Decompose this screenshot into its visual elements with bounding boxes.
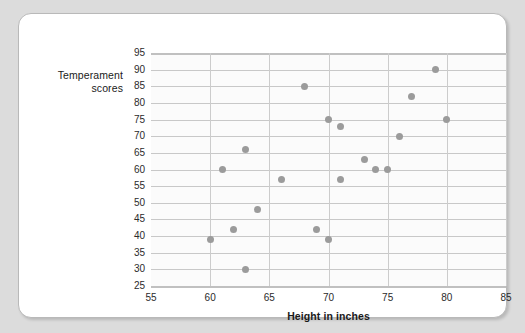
scatter-point (396, 133, 403, 140)
scatter-point (325, 236, 332, 243)
scatter-point (219, 166, 226, 173)
x-axis-tick-label: 70 (314, 293, 344, 303)
y-axis-tick-label: 60 (119, 165, 145, 175)
y-axis-tick-label: 50 (119, 198, 145, 208)
x-axis-tick-label: 60 (195, 293, 225, 303)
y-axis-tick-label: 45 (119, 214, 145, 224)
gridline-horizontal (151, 286, 506, 288)
scatter-point (325, 116, 332, 123)
scatter-point (408, 93, 415, 100)
plot-area (151, 53, 506, 286)
scatter-point (432, 66, 439, 73)
scatter-point (230, 226, 237, 233)
scatter-point (301, 83, 308, 90)
y-axis-title: Temperament scores (37, 69, 123, 95)
x-axis-tick-label: 55 (136, 293, 166, 303)
gridline-vertical (329, 53, 330, 286)
y-axis-tick-label: 75 (119, 115, 145, 125)
gridline-vertical (269, 53, 270, 286)
x-axis-tick-label: 85 (491, 293, 521, 303)
scatter-point (443, 116, 450, 123)
x-axis-tick-label: 80 (432, 293, 462, 303)
figure-root: Temperament scores Height in inches 2530… (0, 0, 525, 333)
scatter-point (254, 206, 261, 213)
scatter-point (242, 266, 249, 273)
gridline-vertical (506, 53, 507, 286)
y-axis-tick-label: 35 (119, 248, 145, 258)
scatter-point (313, 226, 320, 233)
gridline-vertical (210, 53, 211, 286)
y-axis-tick-label: 90 (119, 65, 145, 75)
x-axis-title: Height in inches (151, 310, 506, 322)
x-axis-tick-label: 65 (254, 293, 284, 303)
scatter-point (337, 176, 344, 183)
scatter-point (361, 156, 368, 163)
y-axis-tick-label: 85 (119, 81, 145, 91)
y-axis-tick-label: 70 (119, 131, 145, 141)
gridline-vertical (447, 53, 448, 286)
y-axis-tick-label: 25 (119, 281, 145, 291)
chart-card: Temperament scores Height in inches 2530… (18, 13, 507, 318)
scatter-point (384, 166, 391, 173)
y-axis-title-line-2: scores (37, 82, 123, 95)
y-axis-tick-label: 30 (119, 264, 145, 274)
y-axis-tick-label: 65 (119, 148, 145, 158)
x-axis-tick-label: 75 (373, 293, 403, 303)
y-axis-tick-label: 55 (119, 181, 145, 191)
y-axis-tick-label: 95 (119, 48, 145, 58)
y-axis-tick-label: 80 (119, 98, 145, 108)
scatter-point (207, 236, 214, 243)
y-axis-title-line-1: Temperament (37, 69, 123, 82)
scatter-point (372, 166, 379, 173)
y-axis-tick-label: 40 (119, 231, 145, 241)
scatter-point (337, 123, 344, 130)
scatter-point (278, 176, 285, 183)
